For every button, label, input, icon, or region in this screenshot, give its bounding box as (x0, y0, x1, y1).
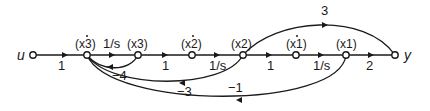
branch-x2-y-feedforward (243, 25, 395, 55)
node-u (30, 52, 36, 58)
node-x3dot (84, 52, 90, 58)
node-x1dot (293, 52, 299, 58)
gain-u-x3dot: 1 (58, 58, 65, 73)
derivative-dot-icon (192, 35, 194, 37)
derivative-dot-icon (86, 35, 88, 37)
node-x2dot (189, 52, 195, 58)
output-label: y (403, 47, 412, 63)
gain-x1-x3dot: −1 (228, 80, 243, 95)
arrow-icon (322, 22, 328, 28)
node-label-x2dot: (x2) (181, 37, 202, 51)
node-label-x2: (x2) (231, 37, 252, 51)
gain-x2-y: 3 (321, 3, 328, 18)
gain-x2-x1dot: 1 (267, 58, 274, 73)
gain-x2-x3dot: −3 (177, 84, 192, 99)
input-label: u (17, 47, 25, 63)
gain-x3dot-x3: 1/s (103, 36, 121, 51)
derivative-dot-icon (296, 35, 298, 37)
gain-x3-x3dot: −4 (112, 68, 127, 83)
node-y (392, 52, 398, 58)
arrow-icon (236, 97, 242, 103)
node-label-x1dot: (x1) (286, 37, 307, 51)
node-label-x3: (x3) (127, 37, 148, 51)
node-label-x3dot: (x3) (75, 37, 96, 51)
gain-x3-x2dot: 1 (162, 58, 169, 73)
gain-x1-y: 2 (366, 58, 373, 73)
gain-x1dot-x1: 1/s (313, 58, 331, 73)
signal-flow-graph: u y (x3) (x3) (x2) (x2) (x1) (x1) 1 1/s … (0, 0, 430, 111)
node-x3 (135, 52, 141, 58)
node-x2 (240, 52, 246, 58)
arrow-icon (109, 52, 115, 58)
node-label-x1: (x1) (336, 37, 357, 51)
node-x1 (343, 52, 349, 58)
gain-x2dot-x2: 1/s (209, 58, 227, 73)
